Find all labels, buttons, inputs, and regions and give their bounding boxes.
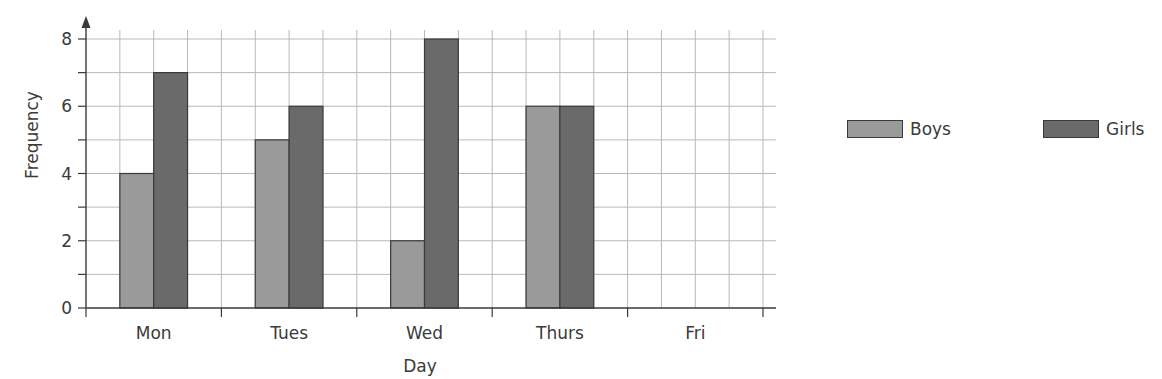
x-axis-ticks: MonTuesWedThursFri	[86, 308, 763, 343]
x-axis-title: Day	[403, 356, 437, 376]
x-category-label: Fri	[685, 323, 705, 343]
bar-girls-tues	[289, 106, 323, 308]
y-tick-label: 0	[61, 298, 72, 318]
bar-boys-tues	[255, 140, 289, 308]
bar-boys-mon	[120, 174, 154, 309]
x-category-label: Thurs	[535, 323, 584, 343]
legend-label-boys: Boys	[910, 119, 951, 139]
legend-label-girls: Girls	[1106, 119, 1144, 139]
bar-chart: 02468 MonTuesWedThursFri Day Frequency	[0, 0, 1162, 379]
legend-swatch-girls	[1043, 120, 1099, 138]
y-axis-arrow-icon	[82, 16, 91, 28]
x-category-label: Tues	[269, 323, 308, 343]
bar-boys-thurs	[526, 106, 560, 308]
x-category-label: Wed	[406, 323, 443, 343]
bar-girls-mon	[154, 73, 188, 308]
y-tick-label: 4	[61, 164, 72, 184]
bar-girls-wed	[425, 39, 459, 308]
bar-boys-wed	[391, 241, 425, 308]
y-tick-label: 2	[61, 231, 72, 251]
legend-item-girls: Girls	[1043, 119, 1144, 139]
bar-girls-thurs	[560, 106, 594, 308]
legend-swatch-boys	[847, 120, 903, 138]
y-axis-title: Frequency	[22, 91, 42, 179]
y-tick-label: 8	[61, 29, 72, 49]
y-axis-ticks: 02468	[61, 29, 86, 318]
y-tick-label: 6	[61, 96, 72, 116]
legend-item-boys: Boys	[847, 119, 951, 139]
x-category-label: Mon	[136, 323, 172, 343]
